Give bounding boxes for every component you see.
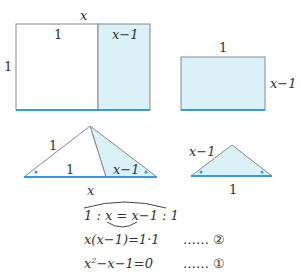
label-small-tri-base: 1 <box>229 183 237 196</box>
label-x-top: x <box>80 9 87 22</box>
small-angle-left <box>200 171 203 174</box>
label-tri-x: x <box>87 184 94 197</box>
label-small-tri-side: x−1 <box>189 145 216 158</box>
small-angle-right <box>261 171 264 174</box>
label-1-left: 1 <box>4 60 12 73</box>
label-1-inner: 1 <box>54 28 62 41</box>
label-tri-side: 1 <box>49 139 57 152</box>
label-small-right: x−1 <box>270 77 297 90</box>
equation-1-tag: …… ① <box>183 257 225 270</box>
equation-2: x(x−1)=1·1 <box>84 233 160 246</box>
eq1-rest: −x−1=0 <box>96 256 153 271</box>
equation-1: x2−x−1=0 <box>84 257 153 270</box>
small-rect <box>181 57 265 110</box>
angle-mark-right <box>145 171 148 174</box>
equation-ratio: 1 : x = x−1 : 1 <box>84 209 179 222</box>
equation-2-tag: …… ② <box>183 233 225 246</box>
label-tri-base-right: x−1 <box>113 163 140 176</box>
label-small-top: 1 <box>219 41 227 54</box>
label-tri-base-left: 1 <box>66 163 74 176</box>
label-x-1-inner: x−1 <box>112 28 139 41</box>
angle-mark-left <box>35 171 38 174</box>
